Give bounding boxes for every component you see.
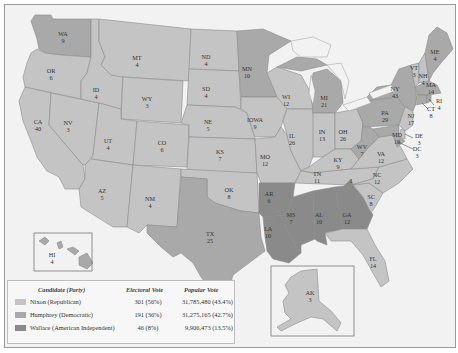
state-label-ma: MA	[426, 81, 437, 88]
state-ev-oh: 26	[340, 135, 346, 142]
state-label-sd: SD	[202, 85, 210, 92]
legend-header-electoral: Electoral Vote	[126, 286, 163, 293]
state-ev-mi: 21	[321, 101, 327, 108]
state-ev-wy: 3	[145, 102, 148, 109]
state-ev-ca: 40	[35, 125, 41, 132]
state-label-la: LA	[264, 225, 273, 232]
state-label-nm: NM	[145, 195, 155, 202]
state-ev-sd: 4	[204, 92, 207, 99]
state-label-md: MD	[392, 131, 403, 138]
state-label-oh: OH	[339, 128, 348, 135]
state-ev-md: 10	[394, 138, 400, 145]
state-ev-ok: 8	[227, 193, 230, 200]
state-ev-nm: 4	[148, 202, 151, 209]
state-ev-la: 10	[265, 232, 271, 239]
state-label-ct: CT	[427, 105, 435, 112]
state-ev-nv: 3	[66, 126, 69, 133]
state-ev-or: 6	[49, 74, 52, 81]
state-label-wy: WY	[142, 95, 153, 102]
state-label-or: OR	[47, 67, 56, 74]
state-label-iowa: IOWA	[247, 116, 264, 123]
state-ev-wi: 12	[283, 100, 289, 107]
state-ev-vt: 3	[412, 71, 415, 78]
state-ev-co: 6	[160, 146, 163, 153]
legend-header-popular: Popular Vote	[184, 286, 218, 293]
electoral-vote: 301 (56%)	[123, 298, 173, 305]
state-label-ok: OK	[225, 186, 234, 193]
candidate-name: Nixon (Republican)	[30, 298, 81, 305]
state-label-al: AL	[315, 211, 323, 218]
state-ev-dc: 3	[415, 152, 418, 159]
state-label-nv: NV	[64, 119, 73, 126]
state-label-ks: KS	[216, 148, 224, 155]
state-ev-wa: 9	[61, 37, 64, 44]
state-label-wa: WA	[58, 30, 68, 37]
state-label-wi: WI	[282, 93, 290, 100]
state-ev-me: 4	[433, 55, 436, 62]
state-ev-ar: 6	[267, 197, 270, 204]
state-label-nh: NH	[419, 72, 428, 79]
state-ev-il: 26	[289, 139, 295, 146]
state-label-ms: MS	[287, 211, 297, 218]
state-label-de: DE	[415, 132, 423, 139]
state-ev-az: 5	[100, 194, 103, 201]
legend-row-humphrey: Humphrey (Democratic) 191 (36%) 31,275,1…	[8, 311, 234, 321]
state-label-ri: RI	[436, 97, 442, 104]
state-ev-nj: 17	[408, 119, 414, 126]
state-label-in: IN	[319, 128, 326, 135]
popular-vote: 31,275,165 (42.7%)	[171, 311, 233, 318]
state-label-nc: NC	[373, 171, 382, 178]
candidate-name: Humphrey (Democratic)	[30, 311, 93, 318]
state-ev-nd: 4	[204, 60, 207, 67]
state-label-wv: WV	[357, 143, 368, 150]
state-sd	[187, 69, 241, 109]
popular-vote: 9,906,473 (13.5%)	[171, 324, 233, 331]
state-ev-nh: 4	[421, 79, 424, 86]
state-ev-ms: 7	[289, 218, 292, 225]
state-label-nc_w: 1	[349, 177, 352, 184]
state-ev-ak: 3	[308, 296, 311, 303]
state-label-me: ME	[430, 48, 440, 55]
state-label-vt: VT	[410, 64, 418, 71]
state-label-tn: TN	[313, 170, 322, 177]
state-label-nd: ND	[202, 53, 211, 60]
state-ev-va: 12	[378, 157, 384, 164]
state-ev-iowa: 9	[253, 123, 256, 130]
state-label-fl: FL	[369, 255, 376, 262]
state-label-sc: SC	[367, 193, 375, 200]
state-ev-fl: 14	[370, 262, 376, 269]
state-ev-ky: 9	[336, 163, 339, 170]
page-margin	[0, 349, 458, 353]
state-label-mo: MO	[260, 153, 271, 160]
state-label-ca: CA	[34, 118, 43, 125]
state-ev-nc: 12	[374, 178, 380, 185]
popular-vote: 31,785,480 (43.4%)	[171, 298, 233, 305]
state-label-az: AZ	[98, 187, 106, 194]
state-ev-mt: 4	[135, 61, 138, 68]
state-label-ar: AR	[265, 190, 274, 197]
state-label-id: ID	[93, 86, 100, 93]
state-ev-mn: 10	[244, 72, 250, 79]
state-ev-ks: 7	[218, 155, 221, 162]
state-ev-ne: 5	[206, 125, 209, 132]
state-label-pa: PA	[381, 109, 389, 116]
state-label-ga: GA	[343, 211, 352, 218]
state-label-mi: MI	[320, 94, 328, 101]
candidate-name: Wallace (American Independent)	[30, 324, 115, 331]
state-ev-in: 13	[319, 135, 325, 142]
legend-row-nixon: Nixon (Republican) 301 (56%) 31,785,480 …	[8, 298, 234, 308]
state-ev-ut: 4	[106, 144, 109, 151]
state-ev-ri: 4	[437, 104, 440, 111]
state-ev-ny: 43	[392, 92, 398, 99]
state-ev-id: 4	[94, 93, 97, 100]
state-label-ne: NE	[204, 118, 212, 125]
state-label-ky: KY	[334, 156, 343, 163]
legend-header-candidate: Candidate (Party)	[38, 286, 85, 293]
state-ev-al: 10	[316, 218, 322, 225]
state-label-mn: MN	[242, 65, 253, 72]
state-ks	[187, 137, 257, 173]
state-mt	[99, 19, 191, 81]
state-label-va: VA	[377, 150, 386, 157]
legend: Candidate (Party) Electoral Vote Popular…	[7, 280, 235, 344]
state-label-tx: TX	[206, 230, 215, 237]
